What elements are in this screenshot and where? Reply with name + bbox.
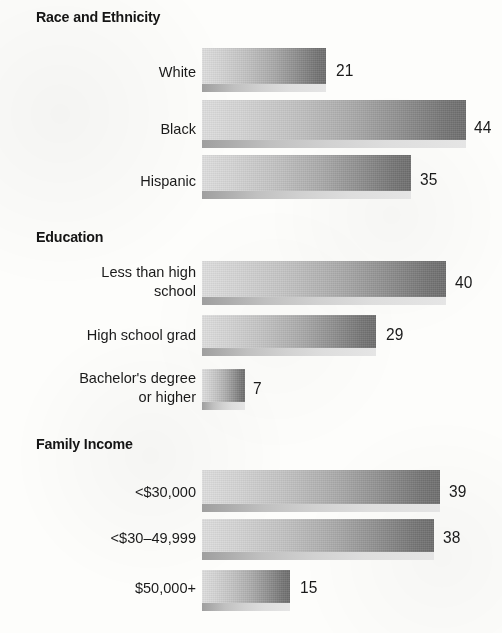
bar-fill <box>202 155 411 191</box>
category-label: White <box>21 62 196 81</box>
bar-base-shadow <box>202 504 440 512</box>
bar-under-30000[interactable] <box>202 470 440 504</box>
group-heading-race-and-ethnicity: Race and Ethnicity <box>36 8 160 26</box>
bar-fill <box>202 48 326 84</box>
value-label: 38 <box>443 529 460 547</box>
bar-base-shadow <box>202 140 466 148</box>
bar-fill <box>202 369 245 402</box>
bar-high-school-grad[interactable] <box>202 315 376 348</box>
category-label: $50,000+ <box>21 578 196 597</box>
bar-black[interactable] <box>202 100 466 140</box>
bar-50000-plus[interactable] <box>202 570 290 603</box>
bar-base-shadow <box>202 603 290 611</box>
group-heading-family-income: Family Income <box>36 435 133 453</box>
value-label: 44 <box>474 119 491 137</box>
category-label: Less than high school <box>21 262 196 300</box>
bar-fill <box>202 315 376 348</box>
bar-fill <box>202 100 466 140</box>
value-label: 15 <box>300 579 317 597</box>
bar-base-shadow <box>202 191 411 199</box>
bar-fill <box>202 470 440 504</box>
bar-30-to-49999[interactable] <box>202 519 434 552</box>
value-label: 40 <box>455 274 472 292</box>
chart-canvas: Race and Ethnicity White 21 Black 44 His… <box>0 0 502 633</box>
category-label: High school grad <box>21 325 196 344</box>
bar-base-shadow <box>202 402 245 410</box>
bar-hispanic[interactable] <box>202 155 411 191</box>
bar-base-shadow <box>202 552 434 560</box>
category-label: <$30–49,999 <box>21 528 196 547</box>
category-label: <$30,000 <box>21 482 196 501</box>
value-label: 7 <box>253 380 262 398</box>
bar-white[interactable] <box>202 48 326 84</box>
bar-base-shadow <box>202 297 446 305</box>
group-heading-education: Education <box>36 228 103 246</box>
value-label: 29 <box>386 326 403 344</box>
bar-fill <box>202 570 290 603</box>
category-label: Black <box>21 119 196 138</box>
category-label: Bachelor's degree or higher <box>21 368 196 406</box>
bar-base-shadow <box>202 84 326 92</box>
value-label: 39 <box>449 483 466 501</box>
bar-bachelors-degree-or-higher[interactable] <box>202 369 245 402</box>
value-label: 21 <box>336 62 353 80</box>
bar-base-shadow <box>202 348 376 356</box>
bar-fill <box>202 261 446 297</box>
category-label: Hispanic <box>21 171 196 190</box>
value-label: 35 <box>420 171 437 189</box>
bar-less-than-high-school[interactable] <box>202 261 446 297</box>
bar-fill <box>202 519 434 552</box>
